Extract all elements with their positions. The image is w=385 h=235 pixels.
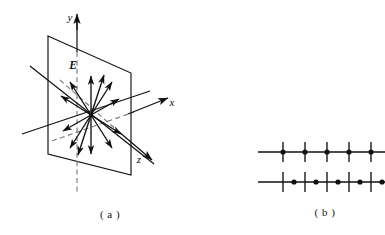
y-axis-label: y: [67, 11, 73, 23]
lower-dot: [379, 179, 384, 184]
z-axis-label: z: [136, 153, 142, 165]
panel-b-group: ( b ): [258, 142, 385, 219]
efield-label: E: [68, 59, 77, 71]
efield-arrow-ne: [91, 82, 112, 115]
efield-arrow-se: [91, 115, 112, 148]
lower-dot: [335, 179, 340, 184]
figure-root: y x z E ( a ): [0, 0, 385, 235]
panel-a-group: y x z E ( a ): [22, 11, 175, 221]
efield-arrow-nw: [70, 82, 91, 115]
origin-point: [89, 113, 93, 117]
efield-arrow-sw: [70, 115, 91, 148]
physics-figure-svg: y x z E ( a ): [0, 0, 385, 235]
efield-arrows: [61, 75, 121, 155]
upper-dot: [346, 149, 351, 154]
x-axis-label: x: [169, 96, 175, 108]
z-axis-dashed: [60, 80, 120, 133]
efield-arrow-wnw: [61, 96, 91, 115]
plane-lines: [22, 66, 154, 164]
lower-line-group: [258, 172, 385, 192]
x-axis-solid: [128, 98, 168, 114]
plane-outline: [48, 36, 131, 175]
upper-dot: [280, 149, 285, 154]
upper-dot: [368, 149, 373, 154]
lower-dot: [357, 179, 362, 184]
panel-b-caption: ( b ): [315, 206, 336, 219]
panel-a-caption: ( a ): [100, 208, 120, 221]
lower-dot: [291, 179, 296, 184]
upper-dot: [302, 149, 307, 154]
charged-plane: [48, 36, 131, 175]
upper-dot: [324, 149, 329, 154]
lower-dot: [313, 179, 318, 184]
upper-line-group: [258, 142, 385, 162]
z-axis-solid: [118, 131, 152, 160]
